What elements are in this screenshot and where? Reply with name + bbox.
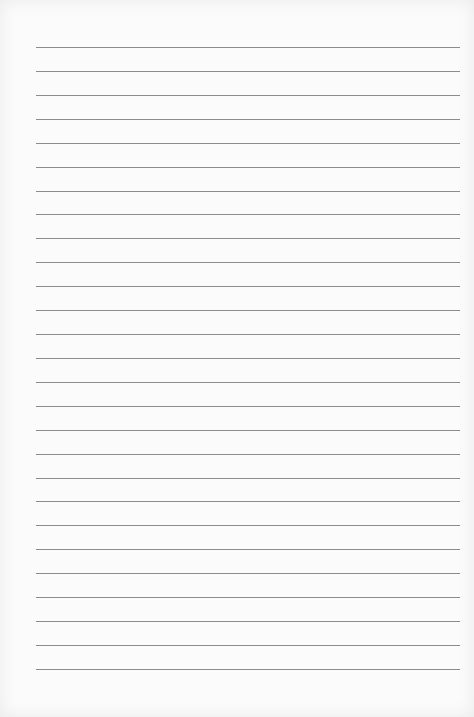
ruled-line	[36, 334, 460, 335]
ruled-line	[36, 214, 460, 215]
ruled-line	[36, 478, 460, 479]
ruled-line	[36, 525, 460, 526]
ruled-line	[36, 286, 460, 287]
ruled-line	[36, 382, 460, 383]
ruled-line	[36, 501, 460, 502]
ruled-line	[36, 430, 460, 431]
ruled-line	[36, 454, 460, 455]
ruled-line	[36, 621, 460, 622]
ruled-line	[36, 95, 460, 96]
ruled-line	[36, 238, 460, 239]
ruled-line	[36, 645, 460, 646]
ruled-line	[36, 47, 460, 48]
ruled-line	[36, 119, 460, 120]
ruled-line	[36, 191, 460, 192]
ruled-line	[36, 310, 460, 311]
ruled-line	[36, 406, 460, 407]
ruled-line	[36, 167, 460, 168]
ruled-line	[36, 358, 460, 359]
ruled-line	[36, 669, 460, 670]
ruled-line	[36, 262, 460, 263]
ruled-line	[36, 143, 460, 144]
ruled-line	[36, 549, 460, 550]
lined-paper-page	[0, 0, 474, 717]
ruled-line	[36, 573, 460, 574]
ruled-line	[36, 71, 460, 72]
ruled-line	[36, 597, 460, 598]
